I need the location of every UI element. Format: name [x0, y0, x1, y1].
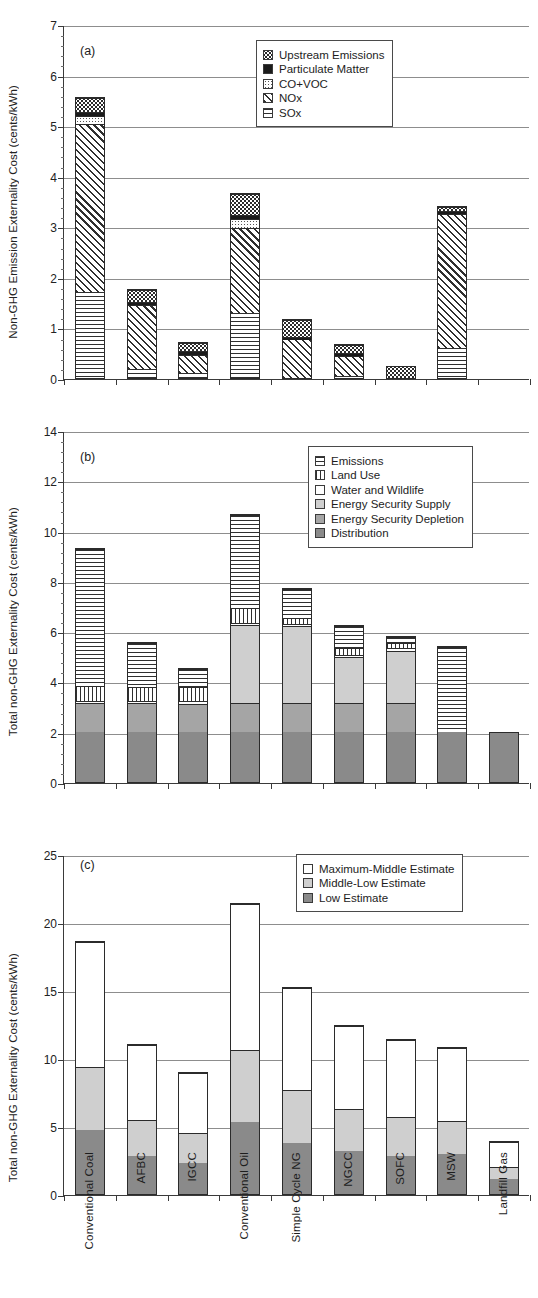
- x-axis-label-text: Conventional Oil: [238, 1152, 250, 1240]
- bar-segment-sox: [438, 348, 466, 378]
- bar-segment-water-and-wildlife: [76, 701, 104, 703]
- legend-label: Distribution: [331, 527, 389, 539]
- gridline: [64, 127, 529, 128]
- panel-a-tag: (a): [80, 44, 95, 58]
- y-tick-minor: [61, 492, 65, 493]
- y-tick-mark: [58, 533, 64, 534]
- y-tick-minor: [61, 168, 65, 169]
- x-tick-mark: [426, 783, 427, 789]
- y-tick-minor: [61, 360, 65, 361]
- y-tick-minor: [61, 472, 65, 473]
- bar-segment-nox: [179, 355, 207, 373]
- bar-b-5: [334, 625, 364, 783]
- y-tick-mark: [58, 279, 64, 280]
- legend-label: Upstream Emissions: [279, 49, 384, 61]
- panel-c-ytick-5: 25: [44, 849, 57, 863]
- x-axis-category-labels: Conventional CoalAFBCIGCCConventional Oi…: [0, 1152, 538, 1298]
- y-tick-minor: [61, 97, 65, 98]
- bar-segment-upstream-emissions: [128, 290, 156, 302]
- y-tick-minor: [61, 269, 65, 270]
- legend-item: Maximum-Middle Estimate: [303, 863, 454, 875]
- y-tick-minor: [61, 653, 65, 654]
- legend-swatch-icon: [315, 514, 325, 524]
- bar-segment-co-voc: [76, 116, 104, 125]
- y-tick-minor: [61, 724, 65, 725]
- panel-b-ytick-3: 6: [50, 626, 57, 640]
- bar-segment-energy-security-supply: [387, 651, 415, 704]
- y-tick-mark: [58, 683, 64, 684]
- bar-b-6: [386, 636, 416, 783]
- bar-b-8: [489, 732, 519, 783]
- y-tick-minor: [61, 36, 65, 37]
- x-tick-mark: [168, 379, 169, 385]
- bar-segment-co-voc: [231, 219, 259, 228]
- gridline: [64, 924, 529, 925]
- bar-segment-middle-low-estimate: [283, 1090, 311, 1143]
- bar-segment-distribution: [179, 732, 207, 782]
- bar-segment-particulate-matter: [128, 302, 156, 305]
- panel-b-legend: EmissionsLand UseWater and WildlifeEnerg…: [308, 446, 473, 548]
- legend-item: Particulate Matter: [263, 63, 384, 75]
- bar-segment-energy-security-depletion: [76, 703, 104, 732]
- bar-segment-upstream-emissions: [179, 343, 207, 352]
- legend-item: Emissions: [315, 455, 464, 467]
- bar-segment-land-use: [283, 618, 311, 623]
- panel-b-y-axis-label: Total non-GHG Externality Cost (cents/kW…: [2, 422, 24, 822]
- x-tick-mark: [323, 783, 324, 789]
- bar-segment-nox: [438, 214, 466, 348]
- y-tick-mark: [58, 228, 64, 229]
- bar-a-0: [75, 97, 105, 379]
- bar-segment-middle-low-estimate: [76, 1067, 104, 1130]
- bar-segment-land-use: [179, 687, 207, 701]
- panel-b-ytick-2: 4: [50, 676, 57, 690]
- y-tick-minor: [61, 137, 65, 138]
- panel-a-legend: Upstream EmissionsParticulate MatterCO+V…: [256, 40, 393, 127]
- panel-a-ytick-5: 5: [50, 120, 57, 134]
- legend-item: Low Estimate: [303, 892, 454, 904]
- bar-segment-particulate-matter: [283, 337, 311, 340]
- x-axis-label-landfill-gas: Landfill Gas: [477, 1152, 529, 1298]
- x-tick-mark: [271, 783, 272, 789]
- x-tick-mark: [219, 783, 220, 789]
- bar-segment-emissions: [387, 637, 415, 643]
- y-tick-minor: [61, 249, 65, 250]
- bar-a-3: [230, 193, 260, 379]
- x-axis-label-text: AFBC: [135, 1152, 147, 1183]
- bar-segment-maximum-middle-estimate: [128, 1045, 156, 1119]
- bar-b-0: [75, 548, 105, 783]
- legend-swatch-icon: [303, 864, 313, 874]
- y-tick-mark: [58, 432, 64, 433]
- x-tick-mark: [478, 379, 479, 385]
- y-tick-minor: [61, 87, 65, 88]
- x-axis-label-msw: MSW: [425, 1152, 477, 1298]
- y-tick-minor: [61, 613, 65, 614]
- y-tick-minor: [61, 259, 65, 260]
- bar-segment-energy-security-supply: [231, 625, 259, 703]
- gridline: [64, 583, 529, 584]
- legend-label: NOx: [279, 92, 302, 104]
- bar-segment-nox: [231, 228, 259, 313]
- panel-c-y-tick-labels: 0510152025: [27, 856, 57, 1196]
- legend-item: NOx: [263, 92, 384, 104]
- bar-segment-maximum-middle-estimate: [76, 942, 104, 1067]
- y-tick-mark: [58, 992, 64, 993]
- x-axis-label-conventional-coal: Conventional Coal: [63, 1152, 115, 1298]
- bar-segment-energy-security-supply: [283, 626, 311, 703]
- bar-segment-sox: [179, 373, 207, 378]
- legend-item: Distribution: [315, 527, 464, 539]
- y-tick-minor: [61, 452, 65, 453]
- legend-swatch-icon: [315, 456, 325, 466]
- x-axis-label-text: NGCC: [342, 1152, 354, 1187]
- y-tick-minor: [61, 523, 65, 524]
- bar-segment-maximum-middle-estimate: [179, 1073, 207, 1133]
- x-tick-mark: [219, 379, 220, 385]
- x-axis-label-text: SOFC: [394, 1152, 406, 1185]
- panel-a-ytick-6: 6: [50, 70, 57, 84]
- bar-segment-maximum-middle-estimate: [438, 1048, 466, 1120]
- panel-c-ytick-4: 20: [44, 917, 57, 931]
- panel-b-ytick-6: 12: [44, 475, 57, 489]
- y-tick-minor: [61, 147, 65, 148]
- bar-a-6: [386, 366, 416, 379]
- y-tick-minor: [61, 370, 65, 371]
- bar-a-2: [178, 342, 208, 379]
